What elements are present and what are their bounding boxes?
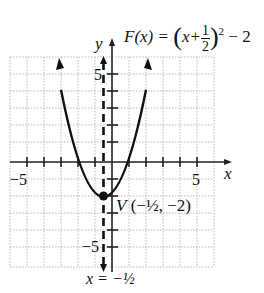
y-axis: [107, 38, 118, 272]
x-tick-min-label: −5: [10, 171, 27, 189]
axis-of-symmetry: [100, 56, 107, 272]
x-axis: [10, 157, 232, 167]
vertex-point: [99, 192, 108, 201]
x-axis-label: x: [224, 164, 232, 184]
y-tick-max-label: 5: [94, 66, 102, 84]
right-arrowhead: [144, 58, 152, 70]
x-tick-max-label: 5: [192, 171, 200, 189]
left-arrowhead: [56, 58, 64, 70]
y-tick-min-label: −5: [82, 238, 99, 256]
vertex-label: V (−½, −2): [116, 196, 191, 216]
function-label: F(x) = (x+12)2 − 2: [124, 22, 251, 54]
y-axis-label: y: [95, 34, 103, 54]
symmetry-equation-label: x = −½: [86, 270, 135, 288]
